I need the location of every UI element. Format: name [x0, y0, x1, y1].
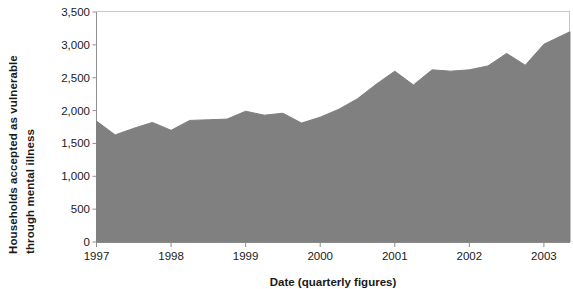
y-axis-tick-labels: 3,500 3,000 2,500 2,000 1,500 1,000 500 …	[44, 0, 90, 289]
area-series-mental-illness	[97, 32, 571, 242]
x-tick-label: 1998	[158, 251, 184, 263]
x-tick-label: 2000	[307, 251, 333, 263]
x-tick-label: 2002	[457, 251, 483, 263]
y-axis-title: Households accepted as vulnerable throug…	[0, 0, 48, 260]
y-tick-label: 3,500	[46, 7, 90, 19]
y-axis-title-line-2: through mental illness	[24, 129, 36, 254]
y-tick-label: 1,000	[46, 171, 90, 183]
y-tick-label: 500	[46, 204, 90, 216]
x-tick-label: 2003	[531, 251, 557, 263]
x-tick-label: 1997	[84, 251, 110, 263]
y-tick-label: 1,500	[46, 138, 90, 150]
y-axis-ticks	[93, 12, 97, 242]
y-tick-label: 2,500	[46, 73, 90, 85]
y-axis-title-line-1: Households accepted as vulnerable	[7, 55, 19, 254]
x-tick-label: 2001	[382, 251, 408, 263]
x-axis-title: Date (quarterly figures)	[96, 276, 570, 288]
y-tick-label: 2,000	[46, 106, 90, 118]
x-tick-label: 1999	[233, 251, 259, 263]
chart-container: Households accepted as vulnerable throug…	[0, 0, 573, 289]
y-tick-label: 0	[46, 237, 90, 249]
y-tick-label: 3,000	[46, 40, 90, 52]
